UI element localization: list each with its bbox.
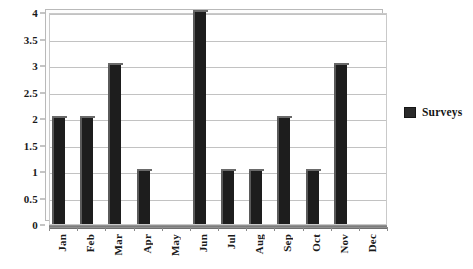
x-axis-tick-mark	[387, 227, 388, 231]
x-axis-tick-label-apr: Apr	[142, 234, 153, 254]
y-axis-tick-label: 2.5	[24, 87, 38, 99]
bar-top-face	[193, 10, 208, 12]
bar-slot	[247, 14, 275, 224]
bar-top-face	[137, 169, 152, 171]
x-axis-tick-mark	[331, 227, 332, 231]
y-axis-tick-label: 1.5	[24, 140, 38, 152]
x-axis-tick-label-sep: Sep	[282, 234, 293, 252]
plot-frame	[49, 13, 387, 225]
x-axis-tick-label-jan: Jan	[57, 234, 68, 252]
x-axis-tick-mark	[49, 227, 50, 231]
x-axis-tick-label-jun: Jun	[198, 234, 209, 252]
bar-oct[interactable]	[306, 171, 319, 224]
bar-slot	[275, 14, 303, 224]
bar-top-face	[221, 169, 236, 171]
bar-slot	[219, 14, 247, 224]
bar-slot	[304, 14, 332, 224]
x-axis-tick-label-feb: Feb	[85, 234, 96, 252]
y-axis-tick-label: 3	[32, 60, 38, 72]
bar-slot	[191, 14, 219, 224]
bar-slot	[78, 14, 106, 224]
bar-apr[interactable]	[137, 171, 150, 224]
y-axis-tick-label: 3.5	[24, 34, 38, 46]
bar-feb[interactable]	[80, 118, 93, 224]
plot-area	[49, 13, 387, 225]
bar-nov[interactable]	[334, 65, 347, 224]
x-axis-tick-mark	[162, 227, 163, 231]
bar-top-face	[306, 169, 321, 171]
x-axis-tick-mark	[190, 227, 191, 231]
x-axis-tick-label-dec: Dec	[367, 234, 378, 252]
bar-jul[interactable]	[221, 171, 234, 224]
bar-slot	[360, 14, 388, 224]
x-axis-tick-label-may: May	[170, 234, 181, 256]
legend-label-surveys: Surveys	[422, 106, 462, 118]
y-axis-tick-label: 4	[32, 7, 38, 19]
bar-top-face	[334, 63, 349, 65]
x-axis-tick-mark	[134, 227, 135, 231]
bar-top-face	[277, 116, 292, 118]
bar-jun[interactable]	[193, 12, 206, 224]
legend-swatch-surveys	[404, 107, 416, 118]
bar-jan[interactable]	[52, 118, 65, 224]
x-axis-tick-mark	[274, 227, 275, 231]
bar-chart: 00.511.522.533.54 JanFebMarAprMayJunJulA…	[0, 0, 473, 269]
x-axis-tick-mark	[303, 227, 304, 231]
bar-top-face	[108, 63, 123, 65]
bar-top-face	[80, 116, 95, 118]
y-axis-tick-label: 0	[32, 219, 38, 231]
x-axis-tick-label-mar: Mar	[113, 234, 124, 255]
x-axis: JanFebMarAprMayJunJulAugSepOctNovDec	[49, 226, 387, 269]
bar-slot	[50, 14, 78, 224]
bar-top-face	[52, 116, 67, 118]
bar-aug[interactable]	[249, 171, 262, 224]
x-axis-tick-mark	[218, 227, 219, 231]
y-axis-tick-label: 2	[32, 113, 38, 125]
bar-top-face	[249, 169, 264, 171]
y-axis: 00.511.522.533.54	[0, 9, 45, 225]
x-axis-tick-label-nov: Nov	[339, 234, 350, 254]
x-axis-tick-label-jul: Jul	[226, 234, 237, 249]
y-axis-tick-label: 1	[32, 166, 38, 178]
x-axis-tick-label-oct: Oct	[311, 234, 322, 252]
x-axis-tick-mark	[246, 227, 247, 231]
bar-sep[interactable]	[277, 118, 290, 224]
bar-slot	[106, 14, 134, 224]
bar-slot	[163, 14, 191, 224]
x-axis-tick-label-aug: Aug	[254, 234, 265, 254]
x-axis-tick-mark	[77, 227, 78, 231]
x-axis-tick-mark	[105, 227, 106, 231]
bar-mar[interactable]	[108, 65, 121, 224]
bar-slot	[135, 14, 163, 224]
bar-slot	[332, 14, 360, 224]
y-axis-tick-mark	[40, 225, 45, 226]
bars-layer	[50, 14, 386, 224]
y-axis-tick-label: 0.5	[24, 193, 38, 205]
x-axis-tick-mark	[359, 227, 360, 231]
chart-legend: Surveys	[404, 106, 462, 118]
